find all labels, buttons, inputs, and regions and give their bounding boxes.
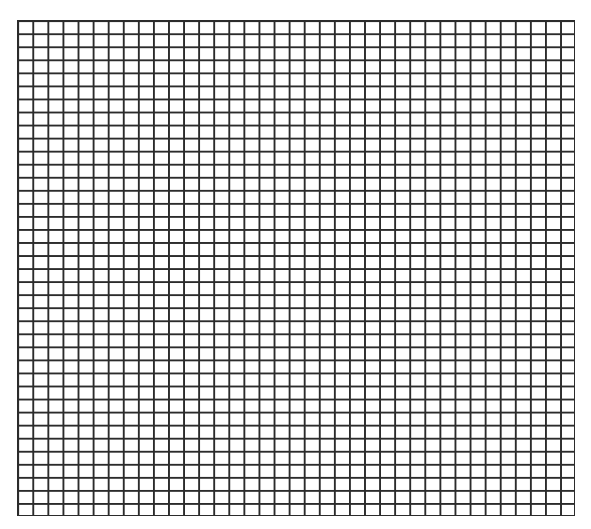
empty-grid xyxy=(17,20,575,516)
page xyxy=(0,0,591,529)
